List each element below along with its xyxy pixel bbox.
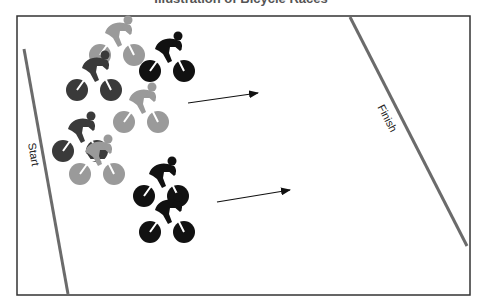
cyclist-icon — [66, 51, 122, 102]
direction-arrow — [217, 190, 290, 202]
direction-arrows — [188, 93, 290, 202]
cyclist-icon — [69, 135, 125, 186]
start-line — [24, 49, 68, 294]
start-label: Start — [26, 142, 42, 167]
diagram-frame — [17, 16, 470, 295]
bicycle-race-diagram: Illustration of Bicycle Races Start Fini… — [0, 0, 482, 307]
diagram-canvas: Start Finish — [0, 0, 482, 307]
direction-arrow — [188, 93, 258, 103]
finish-line — [350, 17, 467, 246]
cyclist-icon — [52, 112, 108, 163]
figure-title: Illustration of Bicycle Races — [0, 0, 482, 6]
cyclists-group — [52, 16, 195, 244]
cyclist-icon — [139, 32, 195, 83]
